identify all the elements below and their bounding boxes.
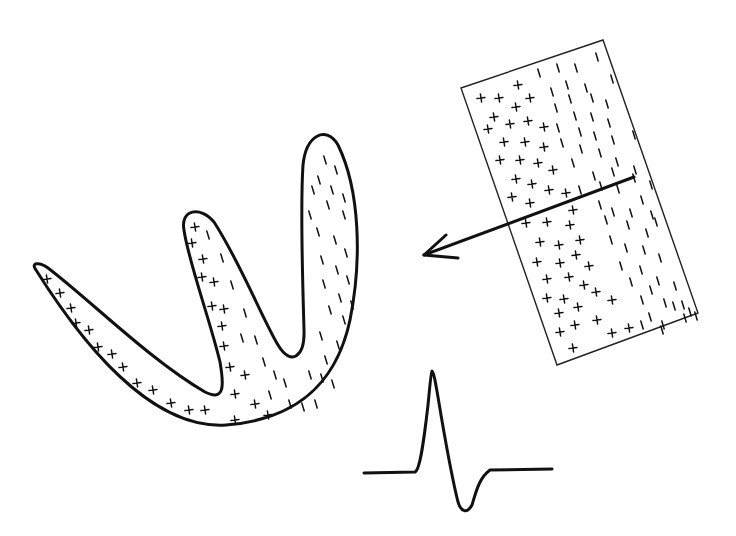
plus-icon bbox=[496, 156, 504, 164]
ecg-waveform bbox=[364, 371, 552, 511]
plus-icon bbox=[119, 363, 127, 371]
plus-icon bbox=[512, 175, 520, 183]
minus-icon bbox=[616, 158, 618, 166]
plus-icon bbox=[524, 117, 532, 125]
minus-icon bbox=[649, 313, 651, 321]
plus-icon bbox=[199, 255, 207, 263]
minus-icon bbox=[336, 266, 338, 274]
minus-icon bbox=[625, 244, 627, 252]
minus-icon bbox=[608, 119, 610, 127]
plus-icon bbox=[521, 138, 529, 146]
plus-icon bbox=[572, 251, 580, 259]
minus-icon bbox=[557, 64, 559, 72]
diagram-canvas bbox=[0, 0, 736, 536]
plus-icon bbox=[67, 304, 75, 312]
plus-icon bbox=[241, 371, 249, 379]
plus-icon bbox=[533, 258, 541, 266]
minus-icon bbox=[255, 336, 257, 344]
minus-icon bbox=[329, 306, 331, 314]
minus-icon bbox=[555, 104, 557, 112]
plus-icon bbox=[569, 344, 577, 352]
minus-icon bbox=[339, 294, 341, 302]
minus-icon bbox=[269, 391, 271, 399]
minus-icon bbox=[332, 380, 334, 388]
minus-icon bbox=[630, 278, 632, 286]
minus-icon bbox=[572, 159, 574, 167]
minus-icon bbox=[643, 246, 645, 254]
minus-icon bbox=[309, 211, 311, 219]
heart-section-shape bbox=[34, 135, 357, 426]
minus-icon bbox=[538, 69, 540, 77]
plus-icon bbox=[560, 295, 568, 303]
minus-icon bbox=[661, 326, 663, 334]
minus-icon bbox=[317, 228, 319, 236]
minus-icon bbox=[569, 95, 571, 103]
plus-icon bbox=[108, 350, 116, 358]
plus-icon bbox=[210, 278, 218, 286]
minus-icon bbox=[324, 156, 326, 164]
plus-icon bbox=[569, 206, 577, 214]
plus-icon bbox=[608, 329, 616, 337]
plus-icon bbox=[543, 294, 551, 302]
positive-charges bbox=[43, 223, 272, 424]
minus-icon bbox=[620, 262, 622, 270]
tissue-block-outline bbox=[461, 40, 698, 365]
minus-icon bbox=[323, 280, 325, 288]
plus-icon bbox=[85, 326, 93, 334]
plus-icon bbox=[566, 221, 574, 229]
minus-icon bbox=[263, 358, 265, 366]
minus-icon bbox=[651, 211, 653, 219]
minus-icon bbox=[641, 296, 643, 304]
plus-icon bbox=[534, 159, 542, 167]
minus-icon bbox=[585, 84, 587, 92]
plus-icon bbox=[251, 400, 259, 408]
minus-icon bbox=[347, 276, 349, 284]
minus-icon bbox=[557, 124, 559, 132]
plus-icon bbox=[608, 296, 616, 304]
tissue-block bbox=[461, 40, 698, 365]
minus-icon bbox=[627, 221, 629, 229]
minus-icon bbox=[664, 299, 666, 307]
minus-icon bbox=[641, 196, 643, 204]
plus-icon bbox=[484, 125, 492, 133]
minus-icon bbox=[231, 281, 233, 289]
minus-icon bbox=[320, 332, 322, 340]
minus-icon bbox=[579, 186, 581, 194]
plus-icon bbox=[580, 281, 588, 289]
plus-icon bbox=[506, 120, 514, 128]
plus-icon bbox=[490, 113, 498, 121]
minus-icon bbox=[605, 216, 607, 224]
minus-icon bbox=[591, 113, 593, 121]
minus-icon bbox=[640, 266, 642, 274]
minus-icon bbox=[284, 379, 286, 387]
plus-icon bbox=[522, 219, 530, 227]
plus-icon bbox=[625, 324, 633, 332]
plus-icon bbox=[56, 289, 64, 297]
arrow-shaft bbox=[424, 177, 634, 255]
plus-icon bbox=[592, 288, 600, 296]
propagation-arrow bbox=[424, 177, 634, 258]
minus-icon bbox=[630, 209, 632, 217]
minus-icon bbox=[325, 356, 327, 364]
plus-icon bbox=[191, 223, 199, 231]
plus-icon bbox=[133, 379, 141, 387]
minus-icon bbox=[318, 176, 320, 184]
minus-icon bbox=[612, 136, 614, 144]
plus-icon bbox=[231, 390, 239, 398]
plus-icon bbox=[198, 273, 206, 281]
plus-icon bbox=[201, 406, 209, 414]
plus-icon bbox=[167, 399, 175, 407]
minus-icon bbox=[551, 88, 553, 96]
plus-icon bbox=[477, 94, 485, 102]
plus-icon bbox=[593, 316, 601, 324]
plus-icon bbox=[528, 180, 536, 188]
minus-icon bbox=[244, 309, 246, 317]
minus-icon bbox=[241, 334, 243, 342]
minus-icon bbox=[580, 145, 582, 153]
plus-icon bbox=[565, 273, 573, 281]
plus-icon bbox=[185, 406, 193, 414]
plus-icon bbox=[549, 166, 557, 174]
minus-icon bbox=[682, 301, 684, 309]
plus-icon bbox=[543, 218, 551, 226]
plus-icon bbox=[556, 328, 564, 336]
